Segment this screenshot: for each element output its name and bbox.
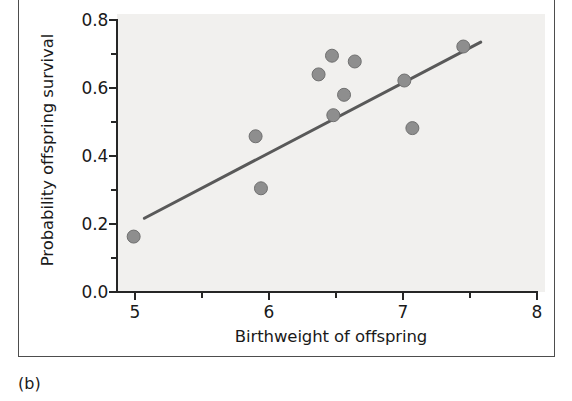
scatter-point: [348, 55, 361, 68]
scatter-point: [254, 182, 267, 195]
scatter-point: [406, 122, 419, 135]
data-layer: [0, 0, 572, 401]
figure-panel-b: 0.00.20.40.60.8 5678 Probability offspri…: [0, 0, 572, 401]
scatter-point: [249, 130, 262, 143]
scatter-point: [338, 88, 351, 101]
scatter-point: [325, 49, 338, 62]
scatter-point: [127, 230, 140, 243]
trendline: [144, 42, 480, 218]
scatter-point: [312, 68, 325, 81]
panel-label: (b): [18, 374, 41, 393]
scatter-point: [398, 74, 411, 87]
scatter-point: [457, 40, 470, 53]
scatter-point: [327, 109, 340, 122]
scatter-points: [127, 40, 470, 243]
